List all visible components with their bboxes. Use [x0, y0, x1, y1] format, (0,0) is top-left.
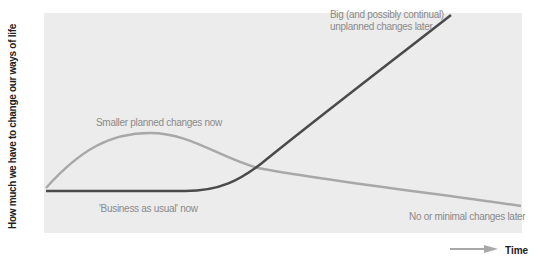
annotation-minimal-later: No or minimal changes later	[409, 211, 525, 223]
chart-plot	[0, 0, 538, 266]
annotation-smaller-planned: Smaller planned changes now	[96, 117, 222, 129]
x-axis-label: Time	[505, 245, 528, 256]
annotation-big-unplanned-line2: unplanned changes later	[330, 21, 414, 33]
time-arrow-icon	[450, 245, 498, 253]
annotation-big-unplanned: Big (and possibly continual) unplanned c…	[330, 9, 414, 33]
annotation-big-unplanned-line1: Big (and possibly continual)	[330, 9, 414, 21]
y-axis-label: How much we have to change our ways of l…	[7, 29, 21, 229]
annotation-business-as-usual: 'Business as usual' now	[99, 203, 198, 215]
planned-changes-curve	[46, 133, 521, 206]
